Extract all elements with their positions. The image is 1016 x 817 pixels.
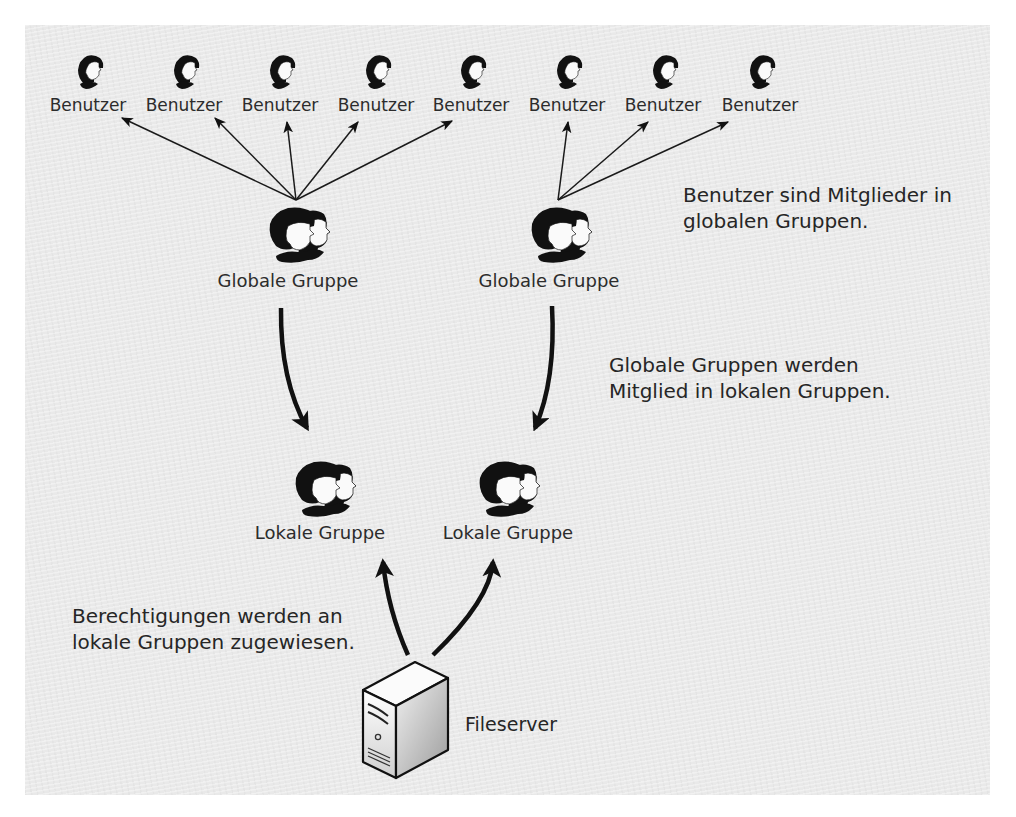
user-label: Benutzer bbox=[50, 95, 127, 115]
user-icon bbox=[270, 55, 295, 89]
arrow bbox=[535, 306, 553, 428]
user-icon bbox=[750, 55, 775, 89]
user-label: Benutzer bbox=[625, 95, 702, 115]
diagram-canvas bbox=[0, 0, 1016, 817]
group-icon bbox=[296, 462, 356, 517]
user-label: Benutzer bbox=[529, 95, 606, 115]
user-label: Benutzer bbox=[242, 95, 319, 115]
membership-arrows-group-1 bbox=[122, 118, 452, 200]
arrow bbox=[383, 562, 408, 655]
arrow bbox=[281, 308, 307, 428]
note-line: globalen Gruppen. bbox=[683, 208, 952, 234]
user-label: Benutzer bbox=[433, 95, 510, 115]
server-label: Fileserver bbox=[465, 713, 557, 735]
permission-arrows bbox=[383, 562, 493, 655]
arrow bbox=[296, 121, 452, 200]
user-icon bbox=[653, 55, 678, 89]
note-line: lokale Gruppen zugewiesen. bbox=[72, 629, 355, 655]
group-icon bbox=[532, 208, 592, 263]
user-icon bbox=[174, 55, 199, 89]
user-label: Benutzer bbox=[338, 95, 415, 115]
arrow bbox=[558, 122, 568, 200]
server-icon bbox=[363, 662, 448, 778]
group-icon bbox=[270, 208, 330, 263]
arrow bbox=[287, 122, 296, 200]
user-label: Benutzer bbox=[722, 95, 799, 115]
user-label: Benutzer bbox=[146, 95, 223, 115]
users-row bbox=[78, 55, 775, 89]
arrow bbox=[296, 122, 358, 200]
global-group-label: Globale Gruppe bbox=[479, 270, 620, 291]
arrow bbox=[122, 118, 296, 200]
group-icon bbox=[480, 462, 540, 517]
user-icon bbox=[461, 55, 486, 89]
nesting-arrows bbox=[281, 306, 553, 428]
note-global-in-local: Globale Gruppen werden Mitglied in lokal… bbox=[609, 352, 891, 404]
note-users-in-global: Benutzer sind Mitglieder in globalen Gru… bbox=[683, 182, 952, 234]
local-group-label: Lokale Gruppe bbox=[443, 522, 573, 543]
user-icon bbox=[78, 55, 103, 89]
note-line: Benutzer sind Mitglieder in bbox=[683, 182, 952, 208]
arrow bbox=[558, 122, 648, 200]
arrow bbox=[215, 118, 296, 200]
note-line: Mitglied in lokalen Gruppen. bbox=[609, 378, 891, 404]
global-group-label: Globale Gruppe bbox=[218, 270, 359, 291]
note-line: Berechtigungen werden an bbox=[72, 603, 355, 629]
local-group-label: Lokale Gruppe bbox=[255, 522, 385, 543]
note-permissions-local: Berechtigungen werden an lokale Gruppen … bbox=[72, 603, 355, 655]
note-line: Globale Gruppen werden bbox=[609, 352, 891, 378]
user-icon bbox=[557, 55, 582, 89]
user-icon bbox=[366, 55, 391, 89]
arrow bbox=[433, 562, 493, 655]
